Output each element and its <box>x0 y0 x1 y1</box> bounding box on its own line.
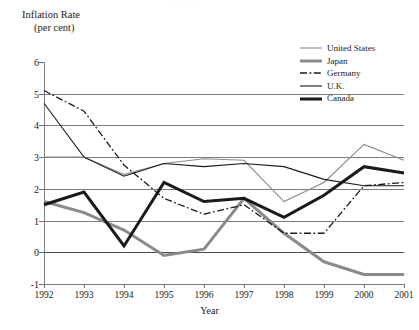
x-tick-1997 <box>244 284 245 288</box>
x-tick-2000 <box>364 284 365 288</box>
x-tick-1996 <box>204 284 205 288</box>
inflation-rate-line-chart: — — — — Inflation Rate (per cent) 654321… <box>0 0 419 330</box>
x-axis-label: 2000 <box>355 290 374 300</box>
gridline--1 <box>44 284 404 285</box>
y-axis-label: 0 <box>17 247 39 258</box>
x-tick-1994 <box>124 284 125 288</box>
legend-swatch-canada <box>300 95 322 103</box>
x-axis-label: 2001 <box>395 290 414 300</box>
x-tick-1995 <box>164 284 165 288</box>
x-axis-label: 1994 <box>115 290 134 300</box>
legend-item-germany: Germany <box>300 67 375 80</box>
legend-swatch-united-states <box>300 44 322 52</box>
legend-label-united-states: United States <box>327 42 375 55</box>
x-axis-label: 1992 <box>35 290 54 300</box>
x-tick-1998 <box>284 284 285 288</box>
y-axis-label: 2 <box>17 183 39 194</box>
x-axis-label: 1996 <box>195 290 214 300</box>
legend-item-japan: Japan <box>300 55 375 68</box>
x-axis-label: 1995 <box>155 290 174 300</box>
chart-legend: United StatesJapanGermanyU.K.Canada <box>300 42 375 105</box>
series-line-canada <box>44 167 404 246</box>
x-tick-1993 <box>84 284 85 288</box>
y-axis-label: 6 <box>17 57 39 68</box>
y-axis-label: 3 <box>17 152 39 163</box>
legend-swatch-germany <box>300 69 322 77</box>
legend-label-u-k: U.K. <box>327 80 345 93</box>
y-axis-label: 1 <box>17 215 39 226</box>
legend-label-japan: Japan <box>327 55 348 68</box>
y-axis-label: -1 <box>17 279 39 290</box>
series-line-united-states <box>44 144 404 201</box>
x-tick-1992 <box>44 284 45 288</box>
x-tick-1999 <box>324 284 325 288</box>
x-tick-2001 <box>404 284 405 288</box>
x-axis-label: 1998 <box>275 290 294 300</box>
legend-swatch-u-k <box>300 82 322 90</box>
y-axis-title-line2: (per cent) <box>22 21 80 34</box>
legend-item-canada: Canada <box>300 92 375 105</box>
legend-label-germany: Germany <box>327 67 361 80</box>
x-axis-label: 1999 <box>315 290 334 300</box>
y-axis-label: 5 <box>17 88 39 99</box>
x-axis-label: 1993 <box>75 290 94 300</box>
y-axis-label: 4 <box>17 120 39 131</box>
legend-item-united-states: United States <box>300 42 375 55</box>
legend-swatch-japan <box>300 57 322 65</box>
y-axis-title-line1: Inflation Rate <box>22 9 80 20</box>
x-axis-label: 1997 <box>235 290 254 300</box>
legend-item-u-k: U.K. <box>300 80 375 93</box>
faint-top-artifact: — — — — <box>168 1 201 9</box>
legend-label-canada: Canada <box>327 92 354 105</box>
x-axis-title: Year <box>0 305 419 316</box>
y-axis-title: Inflation Rate (per cent) <box>22 8 80 34</box>
series-line-u-k <box>44 103 404 185</box>
